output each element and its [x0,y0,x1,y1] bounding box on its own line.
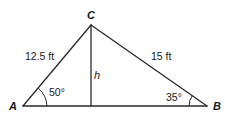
side-bc [91,25,207,106]
angle-label-b: 35° [166,91,182,103]
angle-arc-b [189,96,192,106]
altitude-label-h: h [94,69,100,81]
vertex-label-b: B [213,100,221,112]
side-label-bc: 15 ft [151,50,172,62]
vertex-label-c: C [87,9,96,21]
angle-arc-a [38,88,47,106]
side-label-ac: 12.5 ft [25,50,54,62]
vertex-label-a: A [8,100,17,112]
triangle-diagram: A B C 12.5 ft 15 ft 50° 35° h [0,0,225,118]
angle-label-a: 50° [49,86,65,98]
